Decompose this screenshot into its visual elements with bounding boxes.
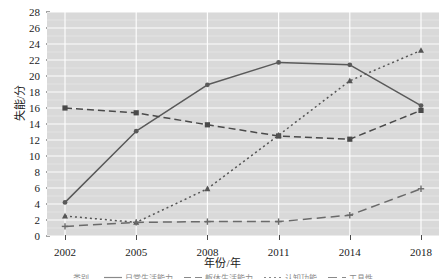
x-tick-mark: [136, 235, 137, 240]
y-tick-label: 10: [29, 150, 40, 162]
data-point-marker: [347, 137, 352, 142]
x-tick-mark: [421, 235, 422, 240]
legend-item-label: 认知功能: [285, 272, 317, 279]
marker-triangle: [62, 213, 68, 219]
marker-circle: [205, 82, 210, 87]
x-tick-mark: [279, 235, 280, 240]
marker-circle: [419, 103, 424, 108]
y-tick-label: 6: [35, 182, 41, 194]
y-axis-tick-labels: 0246810121416182022242628: [6, 0, 46, 240]
y-tick-label: 2: [35, 214, 41, 226]
data-point-marker: [419, 103, 424, 108]
legend-item-label: 躯体生活能力: [205, 272, 253, 279]
marker-square: [62, 105, 67, 110]
marker-square: [205, 122, 210, 127]
data-point-marker: [418, 186, 424, 192]
x-axis-title: 年份/年: [0, 254, 445, 270]
y-tick-label: 12: [29, 134, 40, 146]
chart-figure: 失能/分 0246810121416182022242628 200220052…: [0, 0, 445, 279]
data-point-marker: [63, 200, 68, 205]
y-tick-label: 26: [29, 22, 40, 34]
y-tick-label: 24: [29, 38, 40, 50]
legend-line-key: [328, 274, 346, 279]
plot-area: [47, 12, 439, 236]
legend-title: 类别: [73, 272, 89, 279]
legend-line-key: [184, 274, 202, 279]
legend-items: 类别日常生活能力躯体生活能力认知功能工具性: [0, 270, 445, 279]
y-tick-label: 4: [35, 198, 41, 210]
data-point-marker: [134, 110, 139, 115]
x-tick-mark: [207, 235, 208, 240]
series-4: [62, 186, 424, 230]
legend-item[interactable]: 躯体生活能力: [184, 272, 253, 279]
legend-item-label: 日常生活能力: [125, 272, 173, 279]
y-tick-label: 22: [29, 54, 40, 66]
x-tick-mark: [65, 235, 66, 240]
marker-square: [134, 110, 139, 115]
chart-legend: 类别日常生活能力躯体生活能力认知功能工具性: [0, 270, 445, 279]
legend-line-key: [104, 274, 122, 279]
marker-triangle: [418, 47, 424, 53]
series-1: [63, 60, 424, 205]
legend-item[interactable]: 工具性: [328, 272, 373, 279]
legend-item-label: 工具性: [349, 272, 373, 279]
y-tick-label: 8: [35, 166, 41, 178]
data-point-marker: [62, 105, 67, 110]
data-point-marker: [347, 212, 353, 218]
marker-square: [418, 108, 423, 113]
data-point-marker: [347, 62, 352, 67]
legend-line-key: [264, 274, 282, 279]
y-tick-label: 28: [29, 6, 40, 18]
data-point-marker: [275, 218, 281, 224]
y-tick-label: 20: [29, 70, 40, 82]
series-line: [65, 62, 421, 202]
legend-item[interactable]: 日常生活能力: [104, 272, 173, 279]
marker-circle: [276, 60, 281, 65]
legend-item[interactable]: 认知功能: [264, 272, 317, 279]
marker-circle: [347, 62, 352, 67]
series-line: [65, 189, 421, 227]
data-point-marker: [418, 108, 423, 113]
y-tick-label: 16: [29, 102, 40, 114]
data-point-marker: [276, 60, 281, 65]
data-point-marker: [205, 122, 210, 127]
marker-square: [347, 137, 352, 142]
x-tick-mark: [350, 235, 351, 240]
data-point-marker: [134, 129, 139, 134]
data-point-marker: [205, 82, 210, 87]
data-point-marker: [62, 213, 68, 219]
plot-svg: [47, 12, 439, 236]
data-point-marker: [62, 223, 68, 229]
y-tick-label: 14: [29, 118, 40, 130]
y-tick-label: 18: [29, 86, 40, 98]
marker-circle: [63, 200, 68, 205]
marker-circle: [134, 129, 139, 134]
data-point-marker: [418, 47, 424, 53]
data-point-marker: [204, 218, 210, 224]
